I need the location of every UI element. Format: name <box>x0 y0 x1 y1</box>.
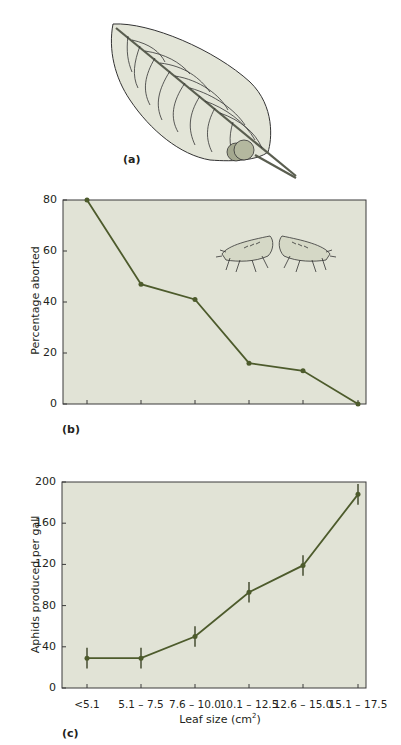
chart-c-xlabel: Leaf size (cm2) <box>160 712 280 726</box>
x-tick-label: <5.1 <box>57 698 117 710</box>
y-tick-label: 80 <box>26 599 56 612</box>
data-point <box>139 656 144 661</box>
plot-area <box>62 482 366 688</box>
y-tick-label: 120 <box>26 557 56 570</box>
x-tick-label: 12.6 – 15.0 <box>273 698 333 710</box>
x-tick-label: 10.1 – 12.5 <box>219 698 279 710</box>
chart-c-ylabel: Aphids produced per gall <box>29 510 42 660</box>
x-tick-label: 15.1 – 17.5 <box>328 698 388 710</box>
chart-c-xlabel-text: Leaf size (cm <box>179 713 252 726</box>
data-point <box>301 563 306 568</box>
y-tick-label: 40 <box>26 640 56 653</box>
panel-label-c: (c) <box>62 727 79 740</box>
chart-c-xlabel-end: ) <box>256 713 260 726</box>
data-point <box>247 590 252 595</box>
chart-c-plot <box>0 0 401 745</box>
x-tick-label: 5.1 – 7.5 <box>111 698 171 710</box>
y-tick-label: 160 <box>26 516 56 529</box>
data-point <box>356 492 361 497</box>
y-tick-label: 200 <box>26 475 56 488</box>
data-point <box>85 656 90 661</box>
y-tick-label: 0 <box>26 681 56 694</box>
data-point <box>193 634 198 639</box>
x-tick-label: 7.6 – 10.0 <box>165 698 225 710</box>
